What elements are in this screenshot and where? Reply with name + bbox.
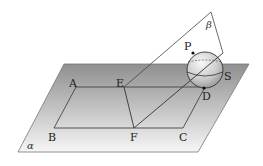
label-beta: β: [205, 19, 212, 30]
label-b: B: [48, 131, 56, 144]
geometry-diagram: A E B F C D S P α β: [0, 0, 263, 166]
label-f: F: [130, 131, 138, 144]
label-s: S: [224, 70, 232, 83]
label-c: C: [179, 131, 187, 144]
label-p: P: [184, 40, 192, 53]
point-p-dot: [191, 51, 194, 54]
label-d: D: [202, 90, 211, 103]
label-alpha: α: [27, 140, 34, 151]
label-a: A: [68, 77, 78, 90]
label-e: E: [116, 77, 124, 90]
